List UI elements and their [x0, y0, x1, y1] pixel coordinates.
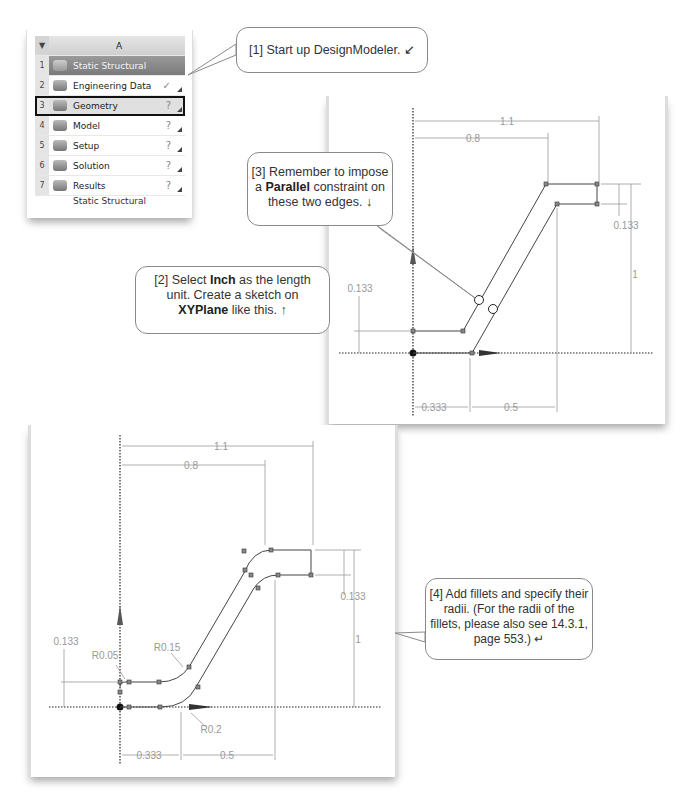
text: these two edges. [268, 195, 363, 209]
callout-step-1: [1] Start up DesignModeler. ↙ [236, 27, 428, 73]
text: a [255, 180, 265, 194]
callout-step-4: [4] Add fillets and specify their radii.… [425, 578, 593, 660]
arrow-icon: ↵ [534, 632, 544, 646]
text: [3] Remember to impose [248, 165, 392, 180]
text: page 553.) [474, 632, 531, 646]
text: like this. [228, 303, 277, 317]
callout-step-3: [3] Remember to impose a Parallel constr… [247, 152, 393, 226]
text: [2] Select [154, 273, 210, 287]
text: as the length [236, 273, 311, 287]
callout-step-2: [2] Select Inch as the length unit. Crea… [135, 266, 330, 334]
xyplane-text: XYPlane [178, 303, 228, 317]
text: unit. Create a sketch on [136, 288, 329, 303]
text: constraint on [310, 180, 385, 194]
text: radii. (For the radii of the [426, 602, 592, 617]
inch-text: Inch [210, 273, 236, 287]
arrow-icon: ↙ [404, 43, 415, 57]
callout-1-text: [1] Start up DesignModeler. [249, 43, 400, 57]
text: [4] Add fillets and specify their [426, 587, 592, 602]
parallel-text: Parallel [265, 180, 309, 194]
text: fillets, please also see 14.3.1, [426, 617, 592, 632]
callout-pointers [0, 0, 685, 811]
arrow-icon: ↓ [366, 195, 372, 209]
arrow-icon: ↑ [280, 303, 286, 317]
